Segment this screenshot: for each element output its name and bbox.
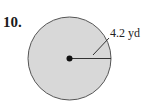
center-point (67, 56, 73, 62)
radius-label: 4.2 yd (110, 26, 140, 40)
circle-diagram: 4.2 yd (0, 0, 147, 108)
